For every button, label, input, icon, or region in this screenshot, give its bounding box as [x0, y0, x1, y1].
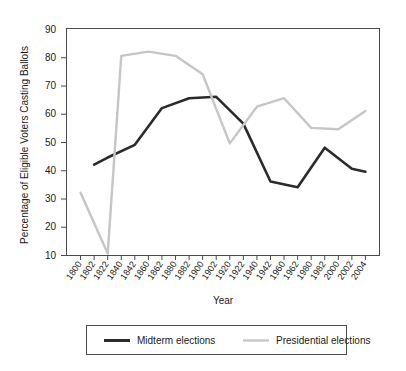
- y-tick-label: 90: [45, 24, 57, 35]
- y-tick-label: 70: [45, 80, 57, 91]
- line-chart: Percentage of Eligible Voters Casting Ba…: [0, 0, 406, 371]
- x-tick-label: 2004: [349, 259, 369, 281]
- series-lines: [81, 52, 366, 254]
- legend-label-1: Midterm elections: [137, 335, 215, 346]
- x-axis-tick-labels: 1800180218221840184218601862188018821900…: [64, 259, 369, 281]
- y-tick-label: 60: [45, 108, 57, 119]
- legend-label-2: Presidential elections: [276, 335, 371, 346]
- plot-area-frame: [67, 29, 380, 256]
- x-axis-title: Year: [213, 295, 234, 306]
- chart-container: Percentage of Eligible Voters Casting Ba…: [0, 0, 406, 371]
- y-tick-label: 80: [45, 52, 57, 63]
- y-tick-label: 10: [45, 250, 57, 261]
- y-tick-label: 50: [45, 137, 57, 148]
- y-tick-label: 30: [45, 193, 57, 204]
- y-tick-label: 40: [45, 165, 57, 176]
- y-axis-title: Percentage of Eligible Voters Casting Ba…: [19, 46, 30, 244]
- y-axis-tick-labels: 102030405060708090: [45, 24, 57, 261]
- y-tick-label: 20: [45, 221, 57, 232]
